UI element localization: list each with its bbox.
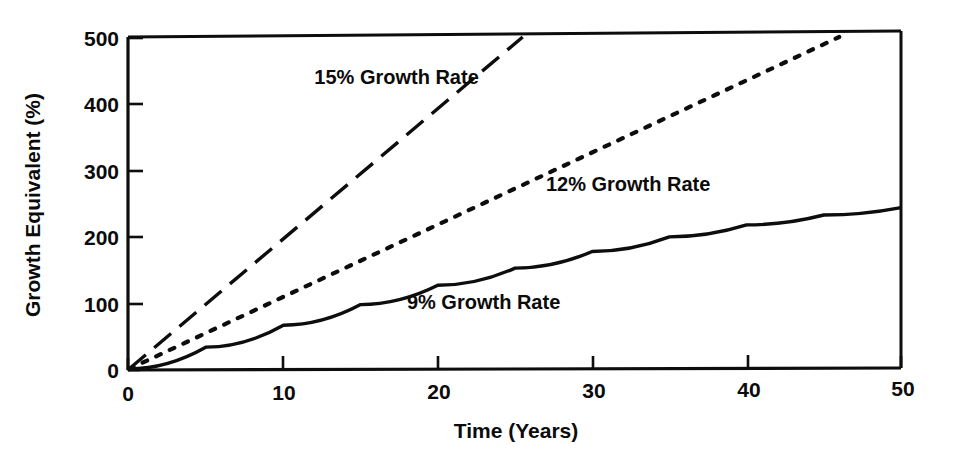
chart-figure: 0 100 200 300 400 500 0 10 20 30 40 50 — [0, 0, 958, 470]
x-axis-tick-labels: 0 10 20 30 40 50 — [122, 377, 915, 405]
x-tick-label-40: 40 — [737, 378, 760, 401]
y-tick-label-0: 0 — [107, 359, 119, 382]
series-label-9-percent: 9% Growth Rate — [407, 291, 560, 313]
x-tick-label-20: 20 — [427, 380, 450, 403]
growth-equivalent-line-chart: 0 100 200 300 400 500 0 10 20 30 40 50 — [0, 0, 958, 470]
y-tick-label-300: 300 — [84, 160, 119, 183]
x-axis-title: Time (Years) — [454, 419, 579, 442]
plot-top-border — [128, 31, 901, 37]
y-tick-label-200: 200 — [84, 226, 119, 249]
y-axis-title: Growth Equivalent (%) — [21, 93, 44, 317]
y-tick-label-400: 400 — [84, 93, 119, 116]
series-line-9-percent — [129, 208, 901, 369]
x-axis-line — [128, 368, 901, 370]
x-tick-label-0: 0 — [122, 382, 134, 405]
series-line-12-percent — [129, 37, 839, 369]
y-axis-tick-labels: 0 100 200 300 400 500 — [84, 27, 119, 382]
x-tick-label-10: 10 — [272, 381, 295, 404]
y-tick-label-100: 100 — [84, 293, 119, 316]
y-tick-label-500: 500 — [84, 27, 119, 50]
plot-frame — [128, 31, 901, 370]
x-tick-label-50: 50 — [891, 377, 914, 400]
series-label-15-percent: 15% Growth Rate — [314, 66, 478, 88]
y-axis-ticks — [128, 38, 143, 370]
series-label-12-percent: 12% Growth Rate — [546, 173, 710, 195]
x-tick-label-30: 30 — [582, 379, 605, 402]
